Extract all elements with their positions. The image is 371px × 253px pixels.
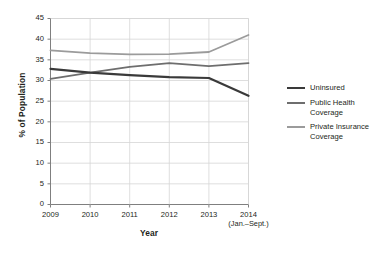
x-axis-tick-label-year: 2014 (240, 210, 257, 219)
y-axis-tick-label: 35 (18, 56, 44, 64)
x-axis-tick-label-year: 2010 (82, 210, 99, 219)
series-line (51, 35, 249, 54)
y-axis-tick-label: 0 (18, 200, 44, 208)
y-axis-tick-label: 20 (18, 118, 44, 126)
chart-legend: UninsuredPublic Health CoveragePrivate I… (287, 83, 371, 146)
y-axis-tick-label: 10 (18, 159, 44, 167)
x-axis-tick-label-year: 2012 (161, 210, 178, 219)
legend-item: Public Health Coverage (287, 98, 371, 117)
y-axis-tick-label: 40 (18, 35, 44, 43)
legend-item: Uninsured (287, 83, 371, 93)
x-axis-tick-label: 2010 (68, 210, 112, 219)
x-axis-tick-label-period: (Jan.–Sept.) (227, 219, 271, 228)
legend-item-label: Public Health Coverage (310, 98, 371, 117)
legend-swatch-line-icon (287, 102, 305, 104)
x-axis-tick-label-year: 2009 (42, 210, 59, 219)
legend-item: Private Insurance Coverage (287, 122, 371, 141)
line-chart: % of Population Year 051015202530354045 … (0, 0, 371, 253)
y-axis-tick-label: 30 (18, 76, 44, 84)
legend-swatch-line-icon (287, 87, 305, 89)
x-axis-tick-label-year: 2011 (122, 210, 138, 219)
x-axis-tick-label: 2012 (147, 210, 191, 219)
legend-item-label: Private Insurance Coverage (310, 122, 371, 141)
legend-swatch-line-icon (287, 126, 305, 128)
y-axis-tick-label: 15 (18, 138, 44, 146)
series-line (51, 69, 249, 96)
x-axis-tick-label: 2009 (29, 210, 73, 219)
legend-item-label: Uninsured (310, 83, 371, 93)
x-axis-tick-label: 2011 (108, 210, 152, 219)
y-axis-tick-label: 45 (18, 14, 44, 22)
x-axis-tick-label: 2013 (187, 210, 231, 219)
x-axis-tick-label-year: 2013 (200, 210, 217, 219)
y-axis-tick-label: 5 (18, 180, 44, 188)
x-axis-tick-label: 2014(Jan.–Sept.) (227, 210, 271, 228)
y-axis-tick-label: 25 (18, 97, 44, 105)
x-axis-title: Year (50, 228, 248, 238)
